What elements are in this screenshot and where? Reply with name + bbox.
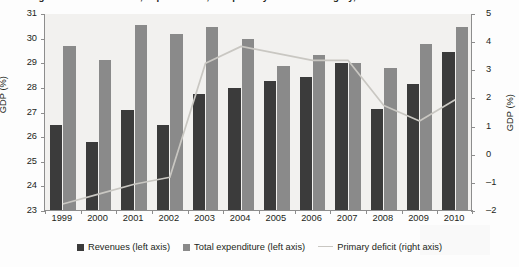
right-axis-tick (471, 155, 475, 156)
left-axis-tick-label: 24 (0, 182, 37, 191)
bar-revenues-1999 (50, 125, 62, 210)
legend-label: Primary deficit (right axis) (337, 242, 442, 252)
bar-total-expenditure-2005 (277, 66, 289, 210)
x-axis-label-1999: 1999 (44, 214, 80, 223)
left-axis-tick-label: 25 (0, 157, 37, 166)
left-axis-tick-label: 26 (0, 132, 37, 141)
right-axis-tick (471, 183, 475, 184)
x-axis-label-2001: 2001 (115, 214, 151, 223)
bar-total-expenditure-2007 (349, 63, 361, 210)
left-axis-title: GDP (%) (0, 65, 9, 125)
bar-total-expenditure-2002 (170, 34, 182, 210)
right-axis-tick (471, 127, 475, 128)
left-axis-tick-label: 23 (0, 206, 37, 215)
x-axis-label-2000: 2000 (80, 214, 116, 223)
bar-revenues-2000 (86, 142, 98, 210)
bar-total-expenditure-2004 (242, 39, 254, 210)
bar-total-expenditure-2000 (99, 60, 111, 210)
left-axis-tick (41, 63, 45, 64)
bar-total-expenditure-2003 (206, 27, 218, 210)
right-axis-tick-label: 3 (486, 66, 491, 75)
bar-revenues-2006 (300, 77, 312, 210)
left-axis-tick (41, 162, 45, 163)
left-axis-tick (41, 186, 45, 187)
left-axis-tick (41, 113, 45, 114)
x-axis-label-2007: 2007 (329, 214, 365, 223)
x-axis-labels: 1999200020012002200320042005200620072008… (44, 214, 472, 228)
bar-total-expenditure-2006 (313, 55, 325, 210)
bar-total-expenditure-2001 (135, 25, 147, 210)
left-axis-tick-label: 31 (0, 9, 37, 18)
left-axis-tick-label: 30 (0, 34, 37, 43)
right-axis-tick (471, 70, 475, 71)
x-axis-label-2008: 2008 (365, 214, 401, 223)
bar-revenues-2002 (157, 125, 169, 210)
bar-total-expenditure-1999 (63, 46, 75, 210)
right-axis-tick (471, 14, 475, 15)
left-axis-tick (41, 39, 45, 40)
bar-revenues-2004 (228, 88, 240, 210)
right-axis-tick-label: 4 (486, 37, 491, 46)
legend-item-1[interactable]: Total expenditure (left axis) (183, 242, 305, 252)
legend-square-swatch-icon (183, 244, 190, 251)
bar-revenues-2005 (264, 81, 276, 210)
right-axis-tick-labels: 543210–1–2 (478, 14, 500, 211)
right-axis-tick-label: –1 (486, 178, 496, 187)
bar-revenues-2007 (335, 63, 347, 210)
bar-revenues-2009 (407, 84, 419, 210)
left-axis-tick (41, 14, 45, 15)
x-axis-label-2006: 2006 (294, 214, 330, 223)
x-axis-label-2005: 2005 (258, 214, 294, 223)
right-axis-tick-label: 5 (486, 9, 491, 18)
chart-figure: Central government revenues, expenditure… (0, 0, 519, 267)
legend-square-swatch-icon (77, 244, 84, 251)
right-axis-tick-label: 1 (486, 122, 491, 131)
legend-item-2[interactable]: Primary deficit (right axis) (318, 242, 442, 252)
bar-revenues-2010 (442, 52, 454, 210)
right-axis-tick (471, 98, 475, 99)
bar-total-expenditure-2008 (384, 68, 396, 210)
right-axis-tick-label: –2 (486, 206, 496, 215)
chart-title: Central government revenues, expenditure… (2, 0, 517, 5)
x-axis-label-2003: 2003 (187, 214, 223, 223)
chart-legend: Revenues (left axis)Total expenditure (l… (0, 239, 519, 255)
right-axis-tick-label: 2 (486, 94, 491, 103)
bar-total-expenditure-2009 (420, 44, 432, 210)
x-axis-label-2002: 2002 (151, 214, 187, 223)
legend-line-swatch-icon (318, 246, 333, 247)
right-axis-title: GDP (%) (506, 83, 515, 143)
bar-total-expenditure-2010 (456, 27, 468, 210)
plot-area (44, 14, 472, 211)
x-axis-tick (472, 210, 473, 214)
x-axis-label-2010: 2010 (436, 214, 472, 223)
right-axis-tick (471, 42, 475, 43)
x-axis-label-2009: 2009 (401, 214, 437, 223)
x-axis-label-2004: 2004 (222, 214, 258, 223)
right-axis-tick-label: 0 (486, 150, 491, 159)
legend-label: Total expenditure (left axis) (194, 242, 305, 252)
left-axis-tick (41, 137, 45, 138)
bar-revenues-2008 (371, 109, 383, 210)
legend-item-0[interactable]: Revenues (left axis) (77, 242, 170, 252)
plot-inner (45, 14, 471, 210)
legend-label: Revenues (left axis) (88, 242, 170, 252)
bar-revenues-2003 (193, 94, 205, 210)
left-axis-tick (41, 88, 45, 89)
bar-revenues-2001 (121, 110, 133, 210)
